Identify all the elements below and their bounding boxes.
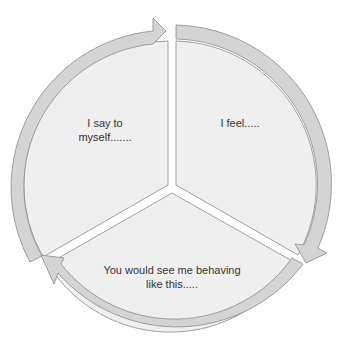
label-self-talk: I say to myself.......	[55, 116, 155, 144]
label-line: I feel.....	[200, 116, 280, 130]
label-line: myself.......	[55, 130, 155, 144]
label-feelings: I feel.....	[200, 116, 280, 130]
label-line: like this.....	[92, 277, 252, 291]
cycle-graphic	[0, 0, 342, 362]
label-line: You would see me behaving	[92, 263, 252, 277]
label-line: I say to	[55, 116, 155, 130]
label-behaviour: You would see me behaving like this.....	[92, 263, 252, 291]
cycle-diagram: I say to myself....... I feel..... You w…	[0, 0, 342, 362]
